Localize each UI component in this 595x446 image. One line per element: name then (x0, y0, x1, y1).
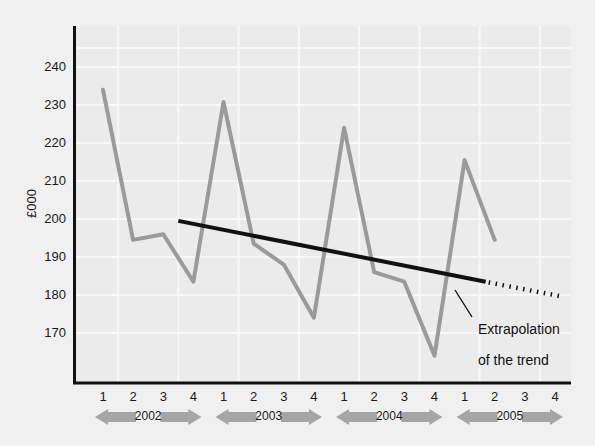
x-tick-label: 3 (515, 389, 535, 404)
y-tick-label: 210 (28, 173, 66, 188)
year-label: 2003 (241, 409, 297, 423)
y-tick-label: 200 (28, 211, 66, 226)
y-tick-label: 240 (28, 59, 66, 74)
year-label: 2002 (120, 409, 176, 423)
x-tick-label: 3 (153, 389, 173, 404)
y-tick-label: 180 (28, 287, 66, 302)
annotation-line-2: of the trend (478, 352, 549, 368)
extrapolation-annotation: Extrapolation of the trend (478, 306, 560, 369)
x-tick-label: 2 (123, 389, 143, 404)
y-tick-label: 230 (28, 97, 66, 112)
x-tick-label: 2 (244, 389, 264, 404)
chart-canvas (0, 0, 595, 446)
x-tick-label: 3 (394, 389, 414, 404)
chart-figure: £000 240230220210200190180170 1234123412… (0, 0, 595, 446)
x-tick-label: 1 (455, 389, 475, 404)
y-tick-label: 190 (28, 249, 66, 264)
x-tick-label: 2 (485, 389, 505, 404)
annotation-line-1: Extrapolation (478, 321, 560, 337)
x-tick-label: 4 (545, 389, 565, 404)
x-tick-label: 2 (364, 389, 384, 404)
x-tick-label: 4 (304, 389, 324, 404)
x-tick-label: 4 (424, 389, 444, 404)
x-tick-label: 4 (183, 389, 203, 404)
x-tick-label: 1 (93, 389, 113, 404)
x-tick-label: 1 (214, 389, 234, 404)
x-tick-label: 3 (274, 389, 294, 404)
y-tick-label: 170 (28, 325, 66, 340)
year-label: 2005 (482, 409, 538, 423)
year-label: 2004 (361, 409, 417, 423)
x-tick-label: 1 (334, 389, 354, 404)
y-tick-label: 220 (28, 135, 66, 150)
